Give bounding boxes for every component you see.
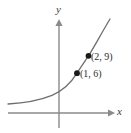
point-label-2-9: (2, 9) bbox=[91, 52, 113, 62]
exponential-graph-figure: y x (2, 9) (1, 6) bbox=[0, 0, 131, 133]
x-axis-label: x bbox=[117, 106, 122, 117]
y-axis-arrowhead bbox=[55, 19, 62, 26]
x-axis-arrowhead bbox=[108, 109, 115, 116]
point-label-1-6: (1, 6) bbox=[80, 69, 102, 79]
y-axis-label: y bbox=[56, 4, 61, 15]
graph-canvas bbox=[0, 0, 131, 133]
